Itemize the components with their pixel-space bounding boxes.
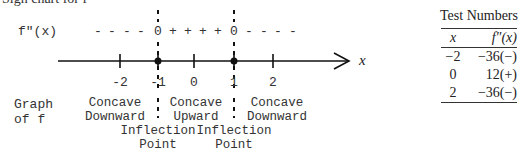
cell-value: −36(−) <box>465 48 517 67</box>
concavity-region: ConcaveDownward <box>247 96 307 124</box>
region-text: Downward <box>85 110 145 124</box>
graph-of-f-label: Graph of f <box>14 97 53 127</box>
test-numbers-table: Test Numbers x f″(x) −2−36(−)012(+)2−36(… <box>438 8 520 103</box>
table-row: −2−36(−) <box>441 48 517 67</box>
inflection-point-label: InflectionPoint <box>120 124 195 152</box>
table-row: 2−36(−) <box>441 84 517 103</box>
concavity-region: ConcaveUpward <box>170 96 223 124</box>
region-text: Concave <box>170 96 223 110</box>
critical-point-dot <box>231 58 238 65</box>
cell-x: −2 <box>441 48 465 67</box>
inflection-text: Point <box>120 138 195 152</box>
tick-label: 2 <box>269 75 277 90</box>
region-text: Concave <box>247 96 307 110</box>
region-text: Downward <box>247 110 307 124</box>
cell-value: −36(−) <box>465 84 517 103</box>
tick-label: 0 <box>190 75 198 90</box>
concavity-region: ConcaveDownward <box>85 96 145 124</box>
axis-label-x: x <box>359 52 366 69</box>
region-text: Concave <box>85 96 145 110</box>
critical-point-dot <box>155 58 162 65</box>
cell-value: 12(+) <box>465 66 517 84</box>
tick-label: -1 <box>150 75 166 90</box>
column-header-fpp: f″(x) <box>465 29 517 48</box>
cell-x: 2 <box>441 84 465 103</box>
inflection-point-label: InflectionPoint <box>196 124 271 152</box>
inflection-text: Point <box>196 138 271 152</box>
tick-label: -2 <box>112 75 128 90</box>
inflection-text: Inflection <box>196 124 271 138</box>
graph-label-line2: of f <box>14 112 53 127</box>
graph-label-line1: Graph <box>14 97 53 112</box>
table-row: 012(+) <box>441 66 517 84</box>
region-text: Upward <box>170 110 223 124</box>
column-header-x: x <box>441 29 465 48</box>
tick-label: 1 <box>230 75 238 90</box>
inflection-text: Inflection <box>120 124 195 138</box>
table-heading: Test Numbers <box>438 8 520 24</box>
cell-x: 0 <box>441 66 465 84</box>
